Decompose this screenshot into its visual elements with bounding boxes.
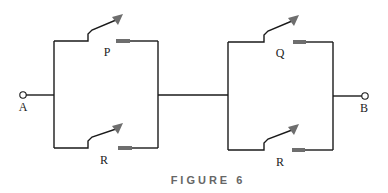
switch-p: P	[54, 14, 158, 59]
switch-q-arrow-icon	[288, 15, 299, 26]
switch-p-blade	[54, 20, 116, 41]
terminal-a: A	[19, 92, 54, 114]
switch-r-right-blade	[228, 130, 292, 150]
switch-r-right: R	[228, 124, 333, 169]
switch-p-label: P	[104, 45, 111, 59]
terminal-a-label: A	[19, 100, 28, 114]
switch-r-left-arrow-icon	[112, 123, 123, 134]
circuit-diagram: A P R Q	[0, 0, 388, 193]
switch-p-arrow-icon	[112, 14, 123, 25]
switch-q: Q	[228, 15, 333, 60]
switch-r-right-label: R	[276, 155, 284, 169]
switch-r-right-contact	[292, 148, 305, 152]
switch-r-left-label: R	[100, 153, 108, 167]
switch-q-blade	[228, 21, 292, 42]
figure-caption: FIGURE 6	[171, 174, 246, 186]
right-parallel-block: Q R	[228, 15, 333, 169]
switch-q-contact	[293, 40, 306, 44]
switch-r-left-blade	[54, 129, 116, 148]
switch-r-left-contact	[118, 146, 132, 150]
switch-r-left: R	[54, 123, 158, 167]
left-parallel-block: P R	[54, 14, 158, 167]
terminal-a-node-icon	[20, 92, 26, 98]
terminal-b-label: B	[360, 101, 368, 115]
switch-r-right-arrow-icon	[288, 124, 299, 135]
switch-q-label: Q	[276, 46, 285, 60]
switch-p-contact	[116, 39, 130, 43]
terminal-b-node-icon	[362, 93, 368, 99]
terminal-b: B	[333, 93, 368, 115]
